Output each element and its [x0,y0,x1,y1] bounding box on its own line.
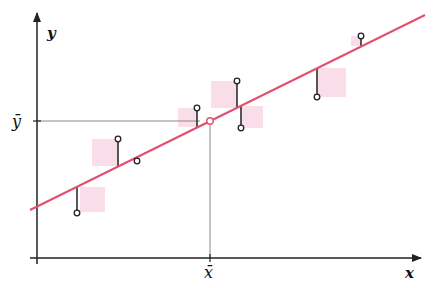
data-point [194,105,200,111]
data-point [238,125,244,131]
data-point [314,94,320,100]
residual-square [92,139,118,166]
residual-square [178,108,197,127]
y-mean-label: ȳ [11,112,22,131]
residual-square [80,187,105,212]
residual-square [317,68,346,97]
residual-segments [77,36,361,213]
y-axis-label: y [46,24,57,42]
data-point [234,78,240,84]
x-mean-label: x̄ [204,263,213,282]
data-point [358,33,364,39]
data-point [134,158,140,164]
regression-line [30,15,425,210]
mean-point [207,118,213,124]
x-axis-label: x [404,264,415,282]
data-points [74,33,364,216]
residual-square [241,106,263,128]
residual-squares [80,36,361,212]
residual-square [211,81,237,108]
data-point [115,136,121,142]
regression-diagram: y x ȳ x̄ [0,0,435,288]
data-point [74,210,80,216]
